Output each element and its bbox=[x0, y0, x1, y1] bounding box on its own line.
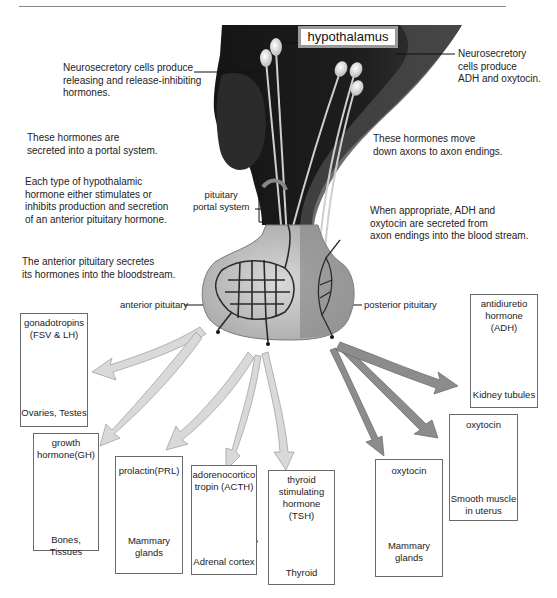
text-line: The anterior pituitary secretes bbox=[22, 256, 175, 269]
text-line: When appropriate, ADH and bbox=[370, 205, 528, 218]
annotation-hypothalamic-effect: Each type of hypothalamic hormone either… bbox=[25, 176, 168, 226]
text-line: tropin (ACTH) bbox=[195, 481, 254, 492]
box-adh: antidiuretio hormone (ADH) Kidney tubule… bbox=[470, 294, 538, 408]
text-line: inhibits production and secretion bbox=[25, 201, 168, 214]
text-line: adorenocortico bbox=[193, 469, 256, 480]
target-organ: Bones, Tissues bbox=[34, 534, 98, 558]
target-organ: Thyroid bbox=[269, 567, 334, 579]
text-line: oxytocin are secreted from bbox=[370, 218, 528, 231]
arrow-to-adh bbox=[336, 342, 458, 394]
text-line: Smooth muscle bbox=[451, 493, 516, 504]
text-line: pituitary bbox=[193, 189, 250, 201]
hormone-name: oxytocin bbox=[376, 460, 442, 477]
annotation-anterior-secretes: The anterior pituitary secretes its horm… bbox=[22, 256, 175, 281]
text-line: These hormones are bbox=[27, 132, 158, 145]
text-line: gonadotropins bbox=[24, 317, 84, 328]
box-prolactin: prolactin(PRL) Mammary glands bbox=[115, 456, 183, 574]
text-line: Mammary bbox=[128, 535, 170, 546]
arrow-to-tsh bbox=[262, 352, 294, 470]
hormone-name: growth hormone(GH) bbox=[34, 434, 98, 461]
hypothalamus-label: hypothalamus bbox=[298, 26, 398, 48]
box-acth: adorenocortico tropin (ACTH) Adrenal cor… bbox=[191, 465, 257, 575]
text-line: Each type of hypothalamic bbox=[25, 176, 168, 189]
text-line: stimulating bbox=[279, 486, 324, 497]
text-line: Mammary bbox=[388, 540, 430, 551]
text-line: growth bbox=[52, 437, 81, 448]
box-gonadotropins: gonadotropins (FSV & LH) Ovaries, Testes bbox=[20, 313, 88, 427]
box-oxytocin-mammary: oxytocin Mammary glands bbox=[375, 459, 443, 577]
text-line: antidiuretio bbox=[481, 298, 527, 309]
target-organ: Smooth muscle in uterus bbox=[450, 493, 517, 517]
text-line: glands bbox=[135, 547, 163, 558]
text-line: portal system bbox=[193, 201, 250, 213]
text-line: (FSV & LH) bbox=[30, 329, 79, 340]
hormone-name: thyroid stimulating hormone (TSH) bbox=[269, 471, 334, 522]
hormone-name: oxytocin bbox=[450, 415, 517, 431]
label-anterior-pituitary: anterior pituitary bbox=[120, 299, 188, 311]
target-organ: Mammary glands bbox=[116, 535, 182, 559]
annotation-posterior-release: When appropriate, ADH and oxytocin are s… bbox=[370, 205, 528, 243]
text-line: in uterus bbox=[465, 505, 501, 516]
annotation-neurosecretory-right: Neurosecretory cells produce ADH and oxy… bbox=[458, 48, 541, 86]
text-line: cells produce bbox=[458, 61, 541, 74]
text-line: secreted into a portal system. bbox=[27, 145, 158, 158]
box-oxytocin-uterus: oxytocin Smooth muscle in uterus bbox=[449, 414, 518, 521]
text-line: thyroid bbox=[287, 474, 316, 485]
text-line: hormone either stimulates or bbox=[25, 189, 168, 202]
annotation-portal-secretion: These hormones are secreted into a porta… bbox=[27, 132, 158, 157]
text-line: Neurosecretory cells produce bbox=[63, 62, 201, 75]
text-line: ADH and oxytocin. bbox=[458, 73, 541, 86]
text-line: releasing and release-inhibiting bbox=[63, 75, 201, 88]
target-organ: Kidney tubules bbox=[471, 389, 537, 401]
text-line: down axons to axon endings. bbox=[373, 146, 503, 159]
text-line: These hormones move bbox=[373, 133, 503, 146]
hormone-name: antidiuretio hormone (ADH) bbox=[471, 295, 537, 334]
anterior-arrows bbox=[92, 327, 294, 470]
label-posterior-pituitary: posterior pituitary bbox=[364, 299, 437, 311]
hormone-name: adorenocortico tropin (ACTH) bbox=[192, 466, 256, 493]
pituitary-gland bbox=[202, 225, 354, 346]
text-line: hormone (ADH) bbox=[485, 310, 523, 333]
annotation-neurosecretory-left: Neurosecretory cells produce releasing a… bbox=[63, 62, 201, 100]
text-line: hormones. bbox=[63, 87, 201, 100]
text-line: its hormones into the bloodstream. bbox=[22, 269, 175, 282]
hypothalamus-shape bbox=[214, 25, 462, 225]
text-line: hormone(GH) bbox=[37, 449, 95, 460]
hormone-name: gonadotropins (FSV & LH) bbox=[21, 314, 87, 341]
posterior-arrows bbox=[330, 342, 458, 456]
box-growth-hormone: growth hormone(GH) Bones, Tissues bbox=[33, 433, 99, 551]
text-line: axon endings into the blood stream. bbox=[370, 230, 528, 243]
target-organ: Adrenal cortex bbox=[192, 556, 256, 568]
box-tsh: thyroid stimulating hormone (TSH) Thyroi… bbox=[268, 470, 335, 585]
label-portal-system: pituitary portal system bbox=[193, 189, 250, 213]
text-line: of an anterior pituitary hormone. bbox=[25, 214, 168, 227]
hormone-name: prolactin(PRL) bbox=[116, 457, 182, 477]
text-line: glands bbox=[395, 552, 423, 563]
target-organ: Ovaries, Testes bbox=[21, 407, 87, 419]
annotation-axon-movement: These hormones move down axons to axon e… bbox=[373, 133, 503, 158]
text-line: Neurosecretory bbox=[458, 48, 541, 61]
target-organ: Mammary glands bbox=[376, 540, 442, 564]
text-line: hormone (TSH) bbox=[283, 498, 321, 521]
